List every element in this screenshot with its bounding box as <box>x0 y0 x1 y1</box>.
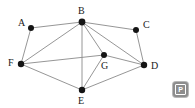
graph-figure: ABCDEFG P <box>0 0 195 108</box>
graph-node-label-a: A <box>18 17 26 28</box>
graph-node-label-d: D <box>151 60 158 71</box>
graph-node-label-g: G <box>101 60 108 71</box>
letter-p-badge-icon: P <box>175 84 186 95</box>
graph-node-f <box>18 61 24 67</box>
node-layer <box>18 19 147 94</box>
graph-node-label-f: F <box>8 57 14 68</box>
graph-node-e <box>79 87 85 93</box>
graph-node-g <box>101 52 107 58</box>
edge-layer <box>21 22 144 90</box>
graph-edge-f-g <box>21 55 104 64</box>
graph-canvas: ABCDEFG <box>0 0 195 108</box>
watermark-badge: P <box>173 82 188 97</box>
graph-edge-b-g <box>82 22 104 55</box>
graph-node-a <box>28 25 34 31</box>
graph-node-d <box>141 62 147 68</box>
graph-edge-e-f <box>21 64 82 90</box>
graph-edge-d-g <box>104 55 144 65</box>
graph-edge-d-e <box>82 65 144 90</box>
graph-node-b <box>79 19 86 26</box>
graph-node-label-e: E <box>78 95 84 106</box>
graph-node-c <box>133 27 139 33</box>
graph-edge-b-c <box>82 22 136 30</box>
graph-node-label-b: B <box>78 5 85 16</box>
graph-node-label-c: C <box>143 19 150 30</box>
